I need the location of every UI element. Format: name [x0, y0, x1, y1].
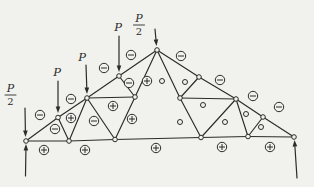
load-label: P — [6, 82, 15, 95]
truss-joint-D — [85, 96, 90, 101]
load-arrow-head — [56, 107, 61, 114]
truss-joint-G — [155, 48, 160, 53]
truss-joint-Kr — [292, 135, 297, 140]
zero-force-symbol — [223, 120, 228, 125]
truss-member-Er-Jr — [201, 137, 248, 138]
truss-joint-E — [113, 137, 118, 142]
truss-joint-A — [24, 139, 29, 144]
zero-force-symbol — [183, 80, 188, 85]
truss-member-Ir-Er — [201, 99, 236, 138]
truss-joint-Er — [199, 135, 204, 140]
truss-joint-Jr2 — [261, 115, 266, 120]
load-label: P — [134, 12, 143, 25]
reaction-arrow-shaft — [295, 146, 297, 178]
truss-joint-B — [56, 115, 61, 120]
truss-member-Jr2-Kr — [263, 117, 294, 137]
truss-joint-Ir — [234, 97, 239, 102]
load-label: 2 — [7, 96, 13, 107]
truss-diagram: P2PPPP2 — [0, 0, 314, 187]
load-label: P — [113, 20, 122, 34]
load-arrow-head — [117, 66, 122, 73]
load-arrow-shaft — [155, 29, 156, 40]
truss-member-D-F — [87, 97, 135, 98]
truss-member-Fr-Ir — [180, 98, 236, 99]
figure-canvas: P2PPPP2 — [0, 0, 314, 187]
load-arrow-head — [23, 130, 28, 137]
truss-joint-Jr — [246, 134, 251, 139]
truss-member-E-Er — [115, 138, 201, 140]
truss-joint-F — [133, 95, 138, 100]
truss-member-Fr-Er — [180, 98, 201, 138]
truss-member-C-E — [69, 140, 115, 142]
truss-member-Jr-Kr — [248, 137, 294, 138]
zero-force-symbol — [178, 120, 183, 125]
zero-force-symbol — [259, 125, 264, 130]
truss-member-Ir-Jr2 — [236, 99, 263, 117]
truss-member-Ir-Jr — [236, 99, 248, 137]
load-label: 2 — [136, 26, 142, 37]
load-label: P — [77, 50, 86, 64]
truss-joint-Fr — [178, 96, 183, 101]
truss-joint-H — [117, 74, 122, 79]
truss-joint-C — [67, 139, 72, 144]
load-arrow-head — [154, 39, 159, 46]
load-arrow-head — [84, 87, 89, 94]
truss-joint-Hr — [197, 75, 202, 80]
zero-force-symbol — [244, 112, 249, 117]
load-label: P — [52, 65, 61, 79]
truss-member-D-H — [87, 76, 119, 98]
zero-force-symbol — [160, 79, 165, 84]
reaction-arrow-head — [293, 140, 298, 147]
reaction-arrow-head — [24, 144, 29, 151]
load-arrow-shaft — [86, 65, 87, 88]
zero-force-symbol — [201, 103, 206, 108]
